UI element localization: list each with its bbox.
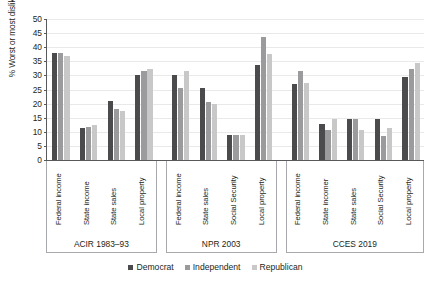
legend-swatch-icon: [128, 265, 133, 270]
y-axis-title: % Worst or most disliked tax: [8, 0, 22, 102]
bar: [227, 135, 232, 160]
y-tick-label: 25: [33, 85, 42, 95]
legend-swatch-icon: [252, 265, 257, 270]
bar: [409, 69, 414, 160]
bar: [114, 109, 119, 160]
bar: [108, 101, 113, 160]
y-tick-label: 15: [33, 113, 42, 123]
bar: [402, 77, 407, 160]
y-tick-label: 35: [33, 56, 42, 66]
bar: [233, 135, 238, 160]
bar: [178, 88, 183, 160]
legend-label: Republican: [260, 262, 303, 272]
bar: [261, 37, 266, 160]
legend-item: Democrat: [128, 262, 173, 272]
bar: [172, 75, 177, 160]
legend-item: Republican: [252, 262, 303, 272]
plot-area: 50454035302520151050: [46, 19, 424, 160]
bar: [92, 125, 97, 160]
bar: [184, 71, 189, 160]
bar: [353, 119, 358, 160]
legend-item: Independent: [185, 262, 241, 272]
bar: [359, 130, 364, 160]
y-tick-label: 20: [33, 99, 42, 109]
y-tick-label: 50: [33, 14, 42, 24]
bar: [52, 53, 57, 160]
y-tick-label: 40: [33, 42, 42, 52]
bar: [375, 119, 380, 160]
legend-swatch-icon: [185, 265, 190, 270]
y-tick-label: 0: [37, 155, 42, 165]
group-label: ACIR 1983–93: [47, 239, 156, 249]
bar: [135, 75, 140, 160]
bar: [206, 102, 211, 160]
bar: [292, 84, 297, 160]
bar: [332, 119, 337, 160]
y-tick-label: 30: [33, 70, 42, 80]
bar: [200, 88, 205, 160]
bar: [80, 128, 85, 160]
bar: [255, 65, 260, 160]
bar-chart: % Worst or most disliked tax 50454035302…: [0, 0, 431, 296]
bar: [325, 130, 330, 160]
bar: [120, 111, 125, 160]
legend-label: Independent: [193, 262, 241, 272]
bar: [319, 124, 324, 160]
group-label: NPR 2003: [167, 239, 276, 249]
bar: [347, 119, 352, 160]
group-box: NPR 2003: [166, 161, 277, 253]
bar: [58, 53, 63, 160]
group-box: CCES 2019: [286, 161, 424, 253]
y-tick-label: 5: [37, 141, 42, 151]
bar: [415, 63, 420, 160]
bars-layer: [47, 19, 424, 160]
bar: [304, 83, 309, 160]
bar: [147, 69, 152, 160]
bar: [212, 104, 217, 160]
y-tick-label: 45: [33, 28, 42, 38]
bar: [86, 127, 91, 160]
group-box: ACIR 1983–93: [46, 161, 157, 253]
bar: [387, 128, 392, 160]
bar: [267, 54, 272, 160]
bar: [64, 56, 69, 160]
bar: [381, 136, 386, 160]
group-label: CCES 2019: [287, 239, 423, 249]
bar: [240, 135, 245, 160]
bar: [298, 71, 303, 160]
y-tick-label: 10: [33, 127, 42, 137]
bar: [141, 71, 146, 160]
chart-legend: DemocratIndependentRepublican: [0, 262, 431, 272]
legend-label: Democrat: [136, 262, 173, 272]
